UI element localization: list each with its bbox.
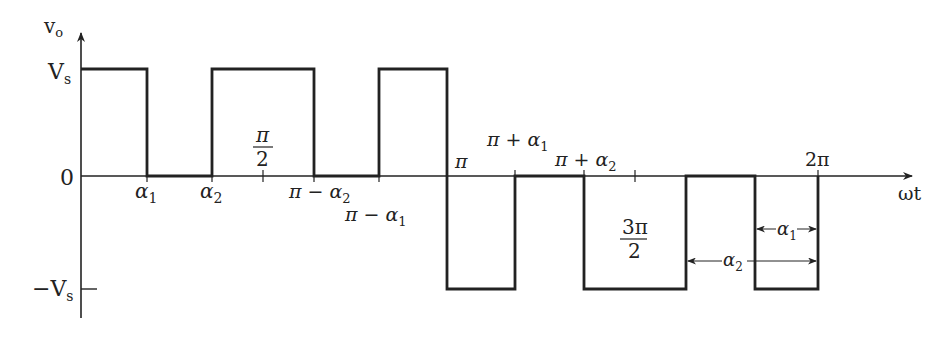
alpha2-dimension: α2 — [688, 249, 816, 274]
two-pi-label: 2π — [805, 148, 830, 170]
alpha2-label: α2 — [200, 179, 222, 206]
svg-text:π: π — [255, 123, 270, 147]
neg-vs-level-label: −Vs — [32, 276, 74, 304]
svg-text:2: 2 — [256, 147, 269, 171]
waveform-trace — [81, 69, 818, 289]
svg-text:α1: α1 — [777, 218, 797, 243]
alpha1-label: α1 — [135, 179, 157, 206]
waveform-diagram: vo Vs 0 −Vs ωt α1 α2 π 2 π − α2 π − α1 π… — [0, 0, 952, 340]
alpha1-dimension: α1 — [757, 218, 816, 243]
vs-level-label: Vs — [47, 59, 71, 87]
pi-minus-alpha2-label: π − α2 — [288, 180, 351, 206]
zero-level-label: 0 — [60, 165, 74, 190]
y-axis-label: vo — [43, 14, 63, 40]
x-axis-label: ωt — [898, 182, 921, 204]
svg-text:α2: α2 — [723, 249, 743, 274]
svg-text:2: 2 — [628, 239, 641, 263]
svg-text:3π: 3π — [622, 215, 648, 239]
three-pi-half-label: 3π 2 — [620, 215, 648, 263]
pi-half-label: π 2 — [253, 123, 273, 171]
pi-minus-alpha1-label: π − α1 — [344, 203, 407, 229]
pi-plus-alpha1-label: π + α1 — [486, 128, 549, 154]
pi-plus-alpha2-label: π + α2 — [554, 148, 617, 174]
pi-label: π — [454, 150, 468, 172]
